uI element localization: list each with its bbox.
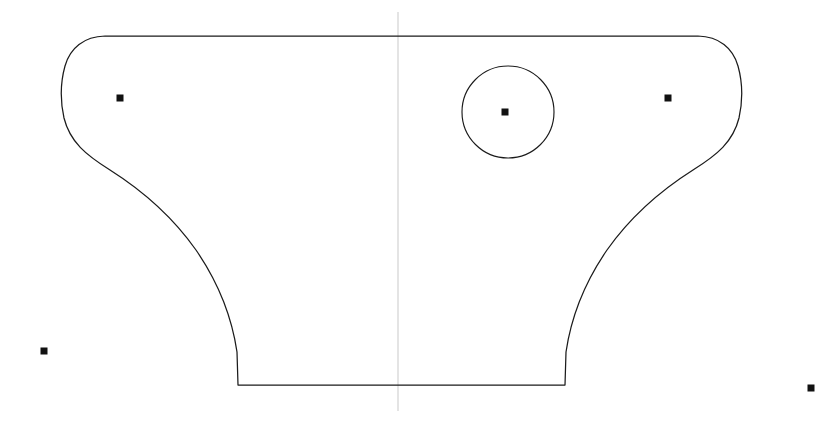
right-lobe-center-marker <box>665 95 672 102</box>
left-lobe-center-marker <box>117 95 124 102</box>
lower-left-reference-marker <box>41 348 48 355</box>
part-outline-path <box>61 36 742 385</box>
drawing-svg-root <box>0 0 840 424</box>
hole-center-marker <box>502 109 509 116</box>
technical-drawing-canvas <box>0 0 840 424</box>
lower-right-reference-marker <box>808 385 815 392</box>
